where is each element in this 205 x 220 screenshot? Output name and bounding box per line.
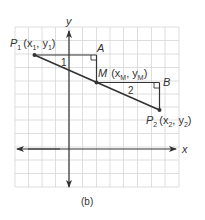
label-p1: P1(x1, y1): [10, 37, 56, 51]
label-p2: P2(x2, y2): [146, 114, 192, 128]
label-b: B: [163, 76, 170, 88]
right-angle-a-icon: [91, 55, 97, 60]
point-m: [95, 81, 99, 85]
point-p1: [33, 53, 37, 57]
label-a: A: [96, 42, 104, 54]
triangle-label-1: 1: [61, 57, 67, 68]
y-axis-label: y: [65, 15, 73, 27]
x-axis-label: x: [181, 143, 188, 155]
point-p2: [158, 108, 162, 112]
figure-caption: (b): [81, 196, 93, 207]
label-m: M(xM, yM): [98, 67, 147, 81]
right-angle-b-icon: [154, 83, 160, 89]
midpoint-diagram: y x P1(x1, y1) A M(xM, yM) B P2(x2, y2) …: [0, 0, 205, 220]
triangle-label-2: 2: [128, 85, 134, 96]
